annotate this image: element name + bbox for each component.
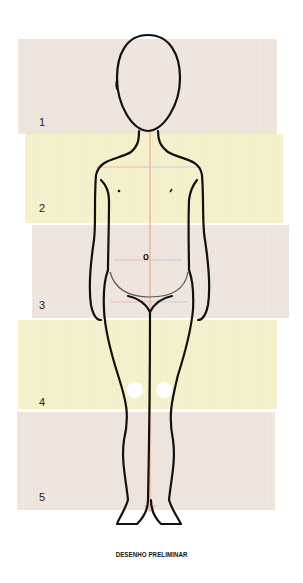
left-knee-mark — [127, 382, 143, 398]
navel — [144, 255, 148, 260]
right-knee-mark — [156, 382, 172, 398]
child-figure-drawing — [0, 0, 303, 583]
left-nipple — [118, 190, 121, 193]
belly-curve — [110, 272, 188, 297]
right-nipple — [170, 189, 172, 192]
illustration-caption: DESENHO PRELIMINAR — [27, 550, 275, 559]
